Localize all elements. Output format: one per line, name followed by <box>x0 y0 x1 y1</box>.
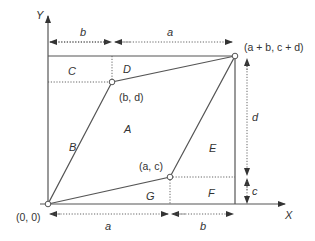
y-axis-label: Y <box>36 9 44 21</box>
point-bd <box>109 79 115 85</box>
region-label-a: A <box>123 123 131 135</box>
dimension-top-a-label: a <box>167 26 173 38</box>
region-label-g: G <box>146 190 155 202</box>
dimension-bottom-a-label: a <box>105 220 111 232</box>
point-origin <box>45 201 51 207</box>
x-axis-label: X <box>284 209 293 221</box>
region-label-f: F <box>208 187 216 199</box>
label-ac: (a, c) <box>139 160 163 172</box>
parallelogram-diagram: Y X (0, 0) (b, d) (a, c) (a + b, c + d) … <box>0 0 315 241</box>
region-label-e: E <box>209 142 217 154</box>
dimension-right-c-label: c <box>252 185 258 197</box>
dimension-bottom-b-label: b <box>200 220 206 232</box>
dimension-top-b-label: b <box>80 26 86 38</box>
label-bd: (b, d) <box>119 91 144 103</box>
region-label-c: C <box>68 65 76 77</box>
region-label-b: B <box>69 141 76 153</box>
parallelogram <box>48 56 235 204</box>
label-sum: (a + b, c + d) <box>244 41 304 53</box>
label-origin: (0, 0) <box>16 211 41 223</box>
point-ac <box>167 174 173 180</box>
dimension-right-d-label: d <box>252 111 259 123</box>
region-label-d: D <box>123 63 131 75</box>
point-sum <box>232 53 238 59</box>
